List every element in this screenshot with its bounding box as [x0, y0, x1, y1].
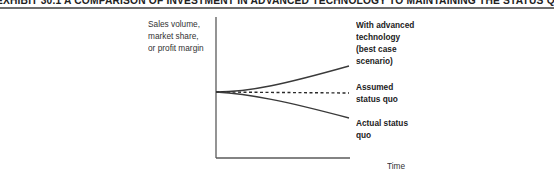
actual-status-quo-curve [216, 92, 349, 118]
comparison-diagram [0, 0, 554, 173]
label-line: technology [356, 31, 414, 43]
label-line: With advanced [356, 19, 414, 31]
advanced-technology-curve [216, 66, 349, 92]
label-line: Assumed [356, 81, 398, 93]
actual-status-quo-label: Actual status quo [356, 117, 408, 141]
advanced-technology-label: With advanced technology (best case scen… [356, 19, 414, 67]
assumed-status-quo-label: Assumed status quo [356, 81, 398, 105]
label-line: status quo [356, 93, 398, 105]
label-line: (best case [356, 43, 414, 55]
label-line: Actual status [356, 117, 408, 129]
x-axis-label: Time [387, 161, 405, 171]
assumed-status-quo-line [216, 92, 349, 93]
label-line: quo [356, 129, 408, 141]
label-line: scenario) [356, 55, 414, 67]
